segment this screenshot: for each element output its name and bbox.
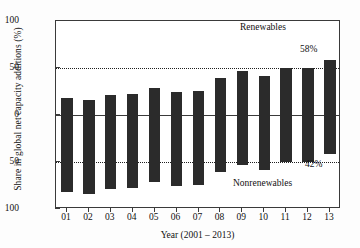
bar-nonrenewables xyxy=(280,115,291,162)
bar-renewables xyxy=(105,95,116,115)
bar-group xyxy=(324,21,335,207)
bar-group xyxy=(127,21,138,207)
nonrenewables-label: Nonrenewables xyxy=(233,178,292,188)
x-axis-title: Year (2001 – 2013) xyxy=(55,230,340,240)
x-axis-tick-label: 05 xyxy=(142,212,166,222)
x-axis-tick-label: 13 xyxy=(317,212,341,222)
bar-group xyxy=(61,21,72,207)
y-axis-tick-label: 50 xyxy=(0,62,19,72)
y-axis-tick-mark xyxy=(55,20,60,21)
y-axis-tick-mark xyxy=(55,114,60,115)
chart-figure: Share in global net capacity additions (… xyxy=(0,0,360,248)
y-axis-tick-label: 50 xyxy=(0,156,19,166)
x-axis-tick-label: 12 xyxy=(295,212,319,222)
bar-group xyxy=(215,21,226,207)
bar-renewables xyxy=(280,68,291,115)
x-axis-tick-label: 02 xyxy=(76,212,100,222)
renewables-label: Renewables xyxy=(240,22,286,32)
x-axis-tick-label: 08 xyxy=(207,212,231,222)
bar-group xyxy=(83,21,94,207)
y-axis-tick-label: 100 xyxy=(0,203,19,213)
bar-nonrenewables xyxy=(215,115,226,172)
bar-group xyxy=(193,21,204,207)
y-axis-tick-mark xyxy=(55,67,60,68)
plot-area xyxy=(55,20,340,208)
y-axis-tick-mark xyxy=(55,208,60,209)
x-axis-tick-label: 01 xyxy=(54,212,78,222)
bar-renewables xyxy=(302,68,313,115)
bar-nonrenewables xyxy=(237,115,248,165)
bar-nonrenewables xyxy=(259,115,270,170)
bar-group xyxy=(105,21,116,207)
bar-nonrenewables xyxy=(127,115,138,188)
y-axis-tick-label: 0 xyxy=(0,109,19,119)
y-axis-tick-label: 100 xyxy=(0,15,19,25)
bar-nonrenewables xyxy=(105,115,116,189)
bar-nonrenewables xyxy=(193,115,204,185)
x-axis-tick-label: 07 xyxy=(186,212,210,222)
bar-group xyxy=(171,21,182,207)
x-axis-tick-label: 06 xyxy=(164,212,188,222)
bar-nonrenewables xyxy=(149,115,160,182)
bar-nonrenewables xyxy=(83,115,94,194)
bar-group xyxy=(149,21,160,207)
bar-renewables xyxy=(237,71,248,115)
bottom-value-label: 42% xyxy=(305,159,322,169)
bar-nonrenewables xyxy=(324,115,335,154)
bar-renewables xyxy=(61,98,72,115)
bar-nonrenewables xyxy=(61,115,72,192)
bar-renewables xyxy=(83,100,94,115)
bar-nonrenewables xyxy=(302,115,313,162)
top-value-label: 58% xyxy=(300,44,317,54)
bar-renewables xyxy=(324,60,335,115)
bar-renewables xyxy=(259,76,270,115)
bar-renewables xyxy=(193,91,204,115)
x-axis-tick-label: 10 xyxy=(251,212,275,222)
bar-renewables xyxy=(171,92,182,116)
x-axis-tick-label: 03 xyxy=(98,212,122,222)
x-axis-tick-label: 11 xyxy=(273,212,297,222)
bar-renewables xyxy=(127,94,138,115)
x-axis-tick-label: 04 xyxy=(120,212,144,222)
x-axis-tick-label: 09 xyxy=(229,212,253,222)
bar-nonrenewables xyxy=(171,115,182,186)
bar-renewables xyxy=(215,78,226,115)
y-axis-tick-mark xyxy=(55,161,60,162)
bar-renewables xyxy=(149,88,160,115)
